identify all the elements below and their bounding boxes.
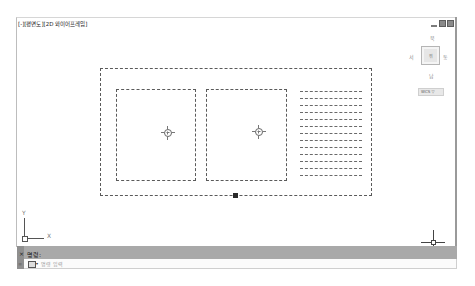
command-close-icon[interactable]: × (19, 251, 24, 257)
hatch-line[interactable] (300, 133, 362, 134)
command-input[interactable] (24, 259, 457, 269)
ucs-origin-icon (22, 236, 28, 242)
command-recent-icon[interactable] (28, 261, 36, 268)
hatch-line[interactable] (300, 91, 362, 92)
viewcube-north[interactable]: 북 (430, 34, 435, 41)
middle-box-rectangle[interactable] (206, 89, 287, 181)
hatch-line[interactable] (300, 161, 362, 162)
hatch-line[interactable] (300, 175, 362, 176)
hatch-line[interactable] (300, 147, 362, 148)
hatch-line[interactable] (300, 112, 362, 113)
command-prompt-text: 명령: (27, 250, 41, 259)
hatch-line[interactable] (300, 119, 362, 120)
cursor-pickbox-icon (431, 240, 436, 245)
command-history-bar (17, 246, 457, 259)
viewport-edge-scrollbar[interactable] (455, 17, 457, 269)
hatch-line[interactable] (300, 126, 362, 127)
ucs-y-label: Y (22, 209, 26, 216)
viewcube-east[interactable]: 동 (443, 53, 448, 60)
viewport-controls-label[interactable]: [-][평면도][2D 와이어프레임] (18, 20, 87, 28)
center-marker-icon[interactable] (252, 125, 266, 139)
command-input-placeholder: 명령 입력 (41, 260, 63, 267)
viewcube-south[interactable]: 남 (429, 72, 434, 79)
close-icon[interactable] (447, 20, 454, 27)
center-marker-ring (255, 128, 263, 136)
ucs-x-label: X (47, 232, 51, 239)
center-marker-ring (164, 129, 172, 137)
hatch-line[interactable] (300, 98, 362, 99)
hatch-line[interactable] (300, 105, 362, 106)
selection-grip[interactable] (233, 193, 238, 198)
restore-icon[interactable] (439, 20, 446, 27)
minimize-icon[interactable] (431, 22, 437, 27)
hatch-line[interactable] (300, 154, 362, 155)
hatch-line[interactable] (300, 168, 362, 169)
viewcube-west[interactable]: 서 (409, 53, 414, 60)
command-dropdown-icon[interactable]: ▾ (36, 261, 38, 266)
viewcube-top-face[interactable]: 위 (421, 46, 440, 65)
center-marker-icon[interactable] (161, 126, 175, 140)
ucs-dropdown[interactable]: WCS ▽ (418, 88, 444, 96)
left-box-rectangle[interactable] (116, 89, 196, 181)
ucs-y-axis (24, 218, 25, 238)
command-history-icon[interactable]: ≡ (18, 261, 22, 267)
hatch-line[interactable] (300, 140, 362, 141)
